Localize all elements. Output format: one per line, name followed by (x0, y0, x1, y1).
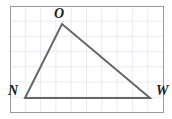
triangle-diagram-canvas: O N W (0, 0, 172, 119)
vertex-label-n: N (7, 83, 19, 98)
vertex-label-w: W (156, 83, 170, 98)
geometry-figure-container: O N W (0, 0, 172, 119)
vertex-label-o: O (54, 6, 64, 21)
